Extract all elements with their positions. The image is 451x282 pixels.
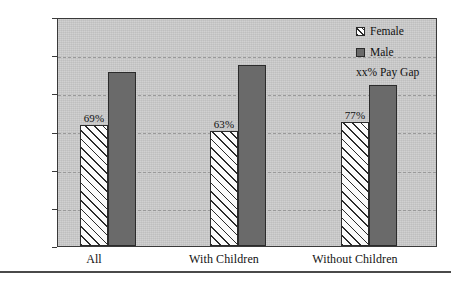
footer-divider	[0, 271, 451, 273]
legend-swatch-male-icon	[356, 48, 365, 57]
legend-item-note: xx% Pay Gap	[356, 67, 419, 79]
bar-value-label-without-children: 77%	[341, 109, 369, 121]
legend-label-pay-gap: xx% Pay Gap	[356, 67, 419, 79]
legend-swatch-female-icon	[356, 27, 365, 36]
x-axis-label-without-children: Without Children	[303, 252, 407, 267]
bar-female-all	[80, 125, 108, 246]
legend-label-female: Female	[370, 26, 404, 38]
bar-female-without-children	[341, 122, 369, 246]
x-axis-label-with-children: With Children	[179, 252, 269, 267]
legend-item-female: Female	[356, 26, 419, 38]
legend-item-male: Male	[356, 47, 419, 59]
bar-male-all	[108, 72, 136, 246]
bar-value-label-all: 69%	[80, 112, 108, 124]
bar-chart-figure: $1,800 1,500 1,200 900 600 300 0 69% 63%…	[0, 0, 451, 282]
legend: Female Male xx% Pay Gap	[356, 26, 419, 88]
legend-label-male: Male	[370, 47, 394, 59]
x-axis-label-all: All	[49, 252, 139, 267]
bar-male-without-children	[369, 85, 397, 246]
bar-female-with-children	[210, 131, 238, 246]
y-axis-tick-mark	[52, 247, 57, 248]
bar-male-with-children	[238, 65, 266, 246]
bar-value-label-with-children: 63%	[210, 118, 238, 130]
